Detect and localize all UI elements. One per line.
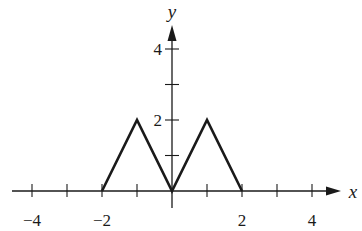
x-tick-label: −2 [93,211,111,230]
x-tick-label: 4 [308,211,317,230]
y-tick-label: 2 [154,111,163,130]
y-axis-label: y [166,1,177,22]
x-tick-label: −4 [23,211,42,230]
x-axis-label: x [348,181,358,202]
y-tick-label: 4 [154,40,163,59]
function-graph: −4−22424xy [0,0,362,231]
y-axis-arrow-icon [168,25,177,41]
x-axis-arrow-icon [326,187,341,196]
x-tick-label: 2 [238,211,247,230]
